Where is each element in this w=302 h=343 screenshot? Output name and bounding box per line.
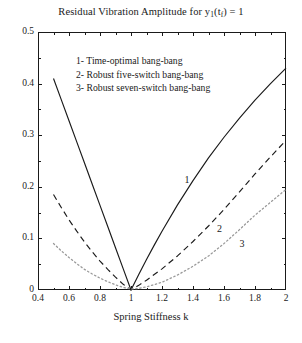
legend: 1- Time-optimal bang-bang 2- Robust five… [76, 54, 256, 95]
x-axis-tick-label: 0.4 [23, 293, 53, 303]
x-axis-label: Spring Stiffness k [0, 311, 302, 322]
series-line-2 [54, 140, 287, 290]
chart-title: Residual Vibration Amplitude for y1(tf) … [0, 6, 302, 19]
figure-canvas: Residual Vibration Amplitude for y1(tf) … [0, 0, 302, 343]
x-axis-tick-label: 1.4 [178, 293, 208, 303]
x-axis-tick-label: 1.8 [240, 293, 270, 303]
curve-tag-1: 1 [184, 175, 189, 185]
curve-tag-3: 3 [240, 239, 245, 249]
y-axis-tick-label: 0.2 [2, 182, 34, 192]
series-line-1 [54, 68, 287, 290]
y-axis-tick-labels: 00.10.20.30.40.5 [0, 0, 34, 343]
x-axis-tick-label: 0.6 [54, 293, 84, 303]
y-axis-tick-label: 0.1 [2, 233, 34, 243]
legend-entry-2: 2- Robust five-switch bang-bang [76, 68, 256, 82]
chart-title-tail: ) = 1 [223, 6, 243, 17]
chart-title-mid: (t [214, 6, 221, 17]
series-line-3 [54, 189, 287, 289]
x-axis-tick-label: 0.8 [85, 293, 115, 303]
y-axis-tick-label: 0.5 [2, 27, 34, 37]
chart-title-lead: Residual Vibration Amplitude for y [58, 6, 210, 17]
x-axis-tick-label: 2 [271, 293, 301, 303]
x-axis-tick-labels: 0.40.60.811.21.41.61.82 [0, 293, 302, 307]
legend-entry-3: 3- Robust seven-switch bang-bang [76, 81, 256, 95]
y-axis-tick-label: 0.3 [2, 130, 34, 140]
curve-tag-2: 2 [217, 224, 222, 234]
y-axis-tick-label: 0.4 [2, 79, 34, 89]
x-axis-tick-label: 1.6 [209, 293, 239, 303]
x-axis-tick-label: 1 [116, 293, 146, 303]
legend-entry-1: 1- Time-optimal bang-bang [76, 54, 256, 68]
x-axis-tick-label: 1.2 [147, 293, 177, 303]
